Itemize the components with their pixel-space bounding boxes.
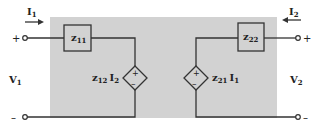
voltage-label-v2: V2 [289, 74, 303, 87]
current-label-i1: I1 [27, 6, 37, 19]
current-arrow-i1 [25, 19, 44, 25]
port1-bottom-terminal[interactable] [23, 115, 28, 120]
port1-plus-sign: + [12, 33, 20, 44]
port2-top-terminal[interactable] [296, 36, 301, 41]
current-label-i2: I2 [289, 6, 299, 19]
port2-minus-sign: – [303, 112, 308, 123]
port1-top-terminal[interactable] [23, 36, 28, 41]
port1-minus-sign: – [11, 112, 16, 123]
port2-plus-sign: + [303, 33, 311, 44]
two-port-circuit: I1 I2 + – V1 z11 + – z12I2 z22 + – z21I1… [0, 0, 320, 130]
voltage-label-v1: V1 [8, 74, 22, 87]
port2-bottom-terminal[interactable] [296, 115, 301, 120]
source-left-plus: + [132, 69, 139, 78]
source-right-minus: – [192, 79, 197, 89]
source-right-plus: + [193, 69, 200, 78]
source-left-minus: – [131, 79, 136, 89]
